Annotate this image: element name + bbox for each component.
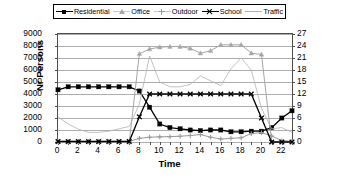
x-axis-tick-label: 16 (210, 146, 230, 154)
legend-item-school: School (202, 8, 242, 16)
x-axis-tick (211, 142, 212, 145)
y-axis-tick-label: 1000 (2, 125, 42, 133)
x-axis-tick (221, 142, 222, 145)
x-axis-tick (150, 142, 151, 145)
x-axis-tick (190, 142, 191, 145)
y-axis-tick-label: 4000 (2, 89, 42, 97)
legend-label-school: School (220, 8, 242, 15)
legend-marker-plus-icon (154, 8, 171, 16)
x-axis-tick-label: 18 (230, 146, 250, 154)
secondary-y-axis-tick-label: 6 (297, 113, 327, 121)
legend-marker-line-icon (245, 8, 262, 16)
y-axis-tick-label: 0 (2, 137, 42, 145)
x-axis-tick (160, 142, 161, 145)
x-axis-tick-label: 10 (149, 146, 169, 154)
x-axis-tick-label: 0 (47, 146, 67, 154)
y-axis-tick-label: 9000 (2, 29, 42, 37)
y-axis-tick (292, 46, 295, 47)
y-axis-tick-label: 5000 (2, 77, 42, 85)
y-axis-tick-label: 2000 (2, 113, 42, 121)
x-axis-tick (200, 142, 201, 145)
legend-item-outdoor: Outdoor (154, 8, 198, 16)
legend-label-outdoor: Outdoor (172, 8, 198, 15)
x-axis-tick (261, 142, 262, 145)
secondary-y-axis-tick-label: 21 (297, 53, 327, 61)
x-axis-tick-label: 8 (128, 146, 148, 154)
legend-item-office: Office (113, 8, 150, 16)
legend-marker-x-icon (202, 8, 219, 16)
secondary-y-axis-tick-label: 27 (297, 29, 327, 37)
secondary-y-axis-tick-label: 9 (297, 101, 327, 109)
y-axis-tick-label: 6000 (2, 65, 42, 73)
y-axis-tick (292, 34, 295, 35)
x-axis-tick (251, 142, 252, 145)
y-axis-tick (292, 70, 295, 71)
x-axis-tick-label: 22 (271, 146, 291, 154)
legend-item-residential: Residential (56, 8, 110, 16)
y-axis-tick (292, 106, 295, 107)
chart-legend: Residential Office Outdoor School Traffi… (53, 4, 286, 19)
y-axis-tick-label: 7000 (2, 53, 42, 61)
x-axis-tick-label: 6 (108, 146, 128, 154)
secondary-y-axis-tick-label: 24 (297, 41, 327, 49)
chart-container: Residential Office Outdoor School Traffi… (0, 0, 339, 178)
y-axis-tick (292, 94, 295, 95)
secondary-y-axis-tick-label: 3 (297, 125, 327, 133)
y-axis-tick (292, 130, 295, 131)
x-axis-tick (180, 142, 181, 145)
secondary-y-axis-tick-label: 0 (297, 137, 327, 145)
legend-marker-square-icon (56, 8, 73, 16)
legend-item-traffic: Traffic (245, 8, 283, 16)
x-axis-tick-label: 2 (67, 146, 87, 154)
legend-label-traffic: Traffic (263, 8, 283, 15)
x-axis-tick-label: 12 (169, 146, 189, 154)
x-axis-tick-label: 20 (250, 146, 270, 154)
y-axis-tick (292, 82, 295, 83)
legend-label-residential: Residential (74, 8, 110, 15)
x-axis-tick-label: 4 (88, 146, 108, 154)
y-axis-tick-label: 8000 (2, 41, 42, 49)
secondary-y-axis-tick-label: 12 (297, 89, 327, 97)
x-axis-tick (241, 142, 242, 145)
secondary-y-axis-tick-label: 15 (297, 77, 327, 85)
legend-label-office: Office (131, 8, 150, 15)
x-axis-tick (139, 142, 140, 145)
plot-area (57, 33, 293, 143)
y-axis-tick (292, 58, 295, 59)
data-series-layer (58, 34, 292, 142)
x-axis-tick (231, 142, 232, 145)
x-axis-tick (170, 142, 171, 145)
y-axis-tick (292, 118, 295, 119)
x-axis-tick-label: 14 (189, 146, 209, 154)
legend-marker-triangle-icon (113, 8, 130, 16)
x-axis-title: Time (0, 158, 339, 169)
y-axis-tick-label: 3000 (2, 101, 42, 109)
secondary-y-axis-tick-label: 18 (297, 65, 327, 73)
